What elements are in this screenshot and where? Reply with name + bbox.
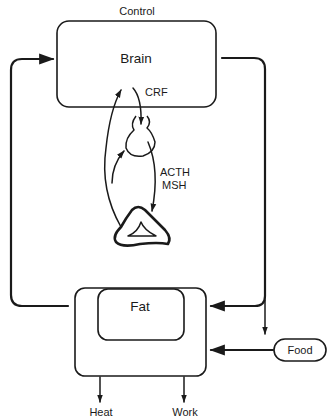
adrenal-gland	[115, 207, 170, 246]
work-label: Work	[172, 406, 198, 418]
food-label: Food	[287, 344, 312, 356]
fat-node: Fat	[75, 288, 206, 376]
heat-label: Heat	[89, 406, 112, 418]
msh-label: MSH	[162, 179, 187, 191]
brain-to-fat-arrow	[211, 58, 265, 306]
acth-label: ACTH	[160, 166, 190, 178]
adrenal-to-pituitary-arrow	[112, 151, 124, 183]
crf-label: CRF	[145, 86, 168, 98]
control-title: Control	[119, 5, 154, 17]
energy-balance-diagram: Control Brain CRF Food Fat Heat	[0, 0, 331, 419]
fat-label: Fat	[130, 299, 150, 314]
adrenal-inner	[128, 222, 156, 236]
brain-label: Brain	[120, 51, 152, 66]
food-node: Food	[274, 339, 326, 361]
